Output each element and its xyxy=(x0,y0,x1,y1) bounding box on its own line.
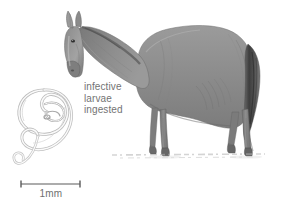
annotation-line-1: infective xyxy=(84,81,144,93)
annotation-infective-larvae-ingested: infective larvae ingested xyxy=(84,81,144,116)
horse-ear-near xyxy=(67,11,74,28)
scale-bar xyxy=(21,181,80,188)
horse-ear-far xyxy=(76,11,82,27)
larva-illustration xyxy=(14,90,72,164)
annotation-line-2: larvae xyxy=(84,93,144,105)
horse-neck xyxy=(77,27,149,89)
ground-line xyxy=(112,154,265,159)
horse-hoof-fore-far xyxy=(149,146,156,154)
illustration-figure: infective larvae ingested 1mm xyxy=(0,0,287,212)
scale-bar-label: 1mm xyxy=(21,188,81,199)
horse-head xyxy=(65,11,84,77)
horse-leg-fore-far xyxy=(150,108,158,147)
horse-hoof-hind-far xyxy=(227,144,235,153)
annotation-line-3: ingested xyxy=(84,104,144,116)
